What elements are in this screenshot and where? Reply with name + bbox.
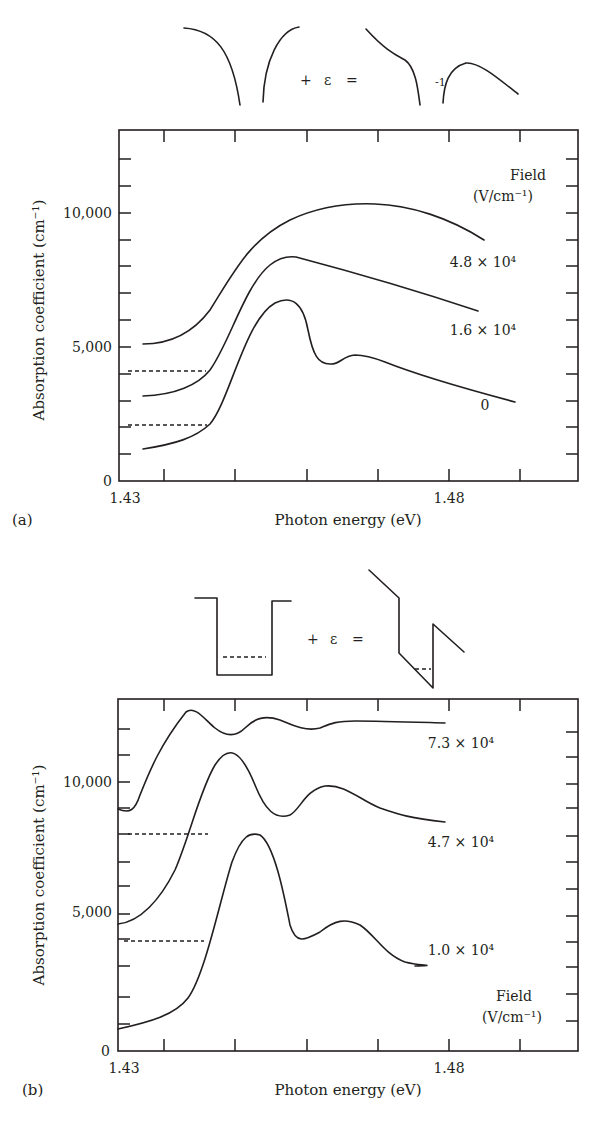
series-label-a-0: 0 xyxy=(481,397,490,413)
y-ticks-right-a xyxy=(566,159,578,454)
series-label-b-4p7e4: 4.7 × 10⁴ xyxy=(428,834,495,850)
curve-b-field-7p3e4 xyxy=(118,710,445,811)
series-label-a-1p6e4: 1.6 × 10⁴ xyxy=(450,322,517,338)
x-ticks-b xyxy=(164,699,520,1051)
legend-title-field-a: Field xyxy=(510,167,546,183)
y-ticks-left-a xyxy=(119,159,131,454)
chart-a: 10,000 5,000 0 1.43 1.48 Photon energy (… xyxy=(12,130,578,529)
y-ticks-right-b xyxy=(566,732,578,1021)
equals-sign: = xyxy=(346,72,358,88)
equals-sign-b: = xyxy=(352,631,364,647)
epsilon-symbol-b: ε xyxy=(330,631,337,647)
epsilon-symbol: ε xyxy=(324,72,331,88)
y-tick-label-5000-b: 5,000 xyxy=(72,904,112,920)
x-axis-label-b: Photon energy (eV) xyxy=(274,1081,421,1099)
tilted-band-right xyxy=(443,63,518,103)
curve-b-field-4p7e4 xyxy=(118,753,445,924)
legend-title-units-a: (V/cm⁻¹) xyxy=(473,188,533,204)
y-ticks-left-b xyxy=(118,729,130,1024)
band-curve-left xyxy=(184,28,240,105)
x-tick-label-1p48-b: 1.48 xyxy=(433,1060,464,1076)
plus-sign-b: + xyxy=(307,631,319,647)
y-tick-label-0-b: 0 xyxy=(101,1043,110,1059)
y-tick-label-0-a: 0 xyxy=(103,473,112,489)
y-tick-label-10000-a: 10,000 xyxy=(63,205,112,221)
band-curve-right xyxy=(263,27,299,102)
legend-title-field-b: Field xyxy=(496,988,532,1004)
y-tick-label-5000-a: 5,000 xyxy=(72,339,112,355)
legend-title-units-b: (V/cm⁻¹) xyxy=(482,1009,542,1025)
y-tick-label-10000-b: 10,000 xyxy=(63,774,112,790)
panel-label-a: (a) xyxy=(12,511,33,529)
x-tick-label-1p43-a: 1.43 xyxy=(109,490,140,506)
y-axis-label-b: Absorption coefficient (cm⁻¹) xyxy=(30,765,48,987)
series-label-b-1p0e4: 1.0 × 10⁴ xyxy=(428,942,495,958)
y-axis-label-a: Absorption coefficient (cm⁻¹) xyxy=(30,200,48,422)
chart-b: 10,000 5,000 0 1.43 1.48 Photon energy (… xyxy=(22,699,578,1099)
tilted-well xyxy=(369,570,464,688)
x-tick-label-1p43-b: 1.43 xyxy=(108,1060,139,1076)
series-label-b-7p3e4: 7.3 × 10⁴ xyxy=(428,735,495,751)
figure: + ε = -1 xyxy=(0,0,602,1134)
x-tick-label-1p48-a: 1.48 xyxy=(433,490,464,506)
series-label-a-4p8e4: 4.8 × 10⁴ xyxy=(450,254,517,270)
panel-label-b: (b) xyxy=(22,1081,43,1099)
plus-sign: + xyxy=(300,72,312,88)
x-axis-label-a: Photon energy (eV) xyxy=(274,511,421,529)
curve-a-field-4p8e4 xyxy=(143,204,484,344)
x-ticks-a xyxy=(164,130,520,481)
curve-b-field-1p0e4 xyxy=(118,834,427,1029)
schematic-b: + ε = xyxy=(195,570,464,688)
tilted-band-left xyxy=(366,29,420,105)
square-well xyxy=(195,598,291,675)
schematic-a: + ε = -1 xyxy=(184,27,518,105)
small-mark: -1 xyxy=(435,76,446,89)
